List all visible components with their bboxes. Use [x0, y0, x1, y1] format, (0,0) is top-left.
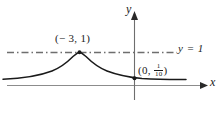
- asymptote-label-text: y = 1: [178, 42, 204, 54]
- y-intercept-label-suffix: ): [163, 64, 167, 76]
- asymptote-label: y = 1: [178, 43, 204, 54]
- math-figure: y x y = 1 (− 3, 1) (0, 110): [0, 0, 222, 119]
- peak-point-label: (− 3, 1): [55, 33, 90, 44]
- y-axis-arrowhead: [131, 11, 138, 20]
- y-intercept-fraction-denominator: 10: [154, 71, 164, 78]
- figure-canvas: [0, 0, 222, 119]
- y-intercept-label: (0, 110): [138, 62, 167, 77]
- y-axis-label: y: [126, 3, 131, 15]
- y-axis: [131, 11, 138, 100]
- y-intercept-point-marker: [133, 76, 137, 80]
- x-axis: [7, 82, 208, 89]
- peak-point-marker: [78, 50, 82, 54]
- x-axis-arrowhead: [200, 82, 208, 89]
- x-axis-label: x: [210, 76, 215, 88]
- y-intercept-label-prefix: (0,: [138, 64, 154, 76]
- y-intercept-fraction: 110: [154, 63, 164, 78]
